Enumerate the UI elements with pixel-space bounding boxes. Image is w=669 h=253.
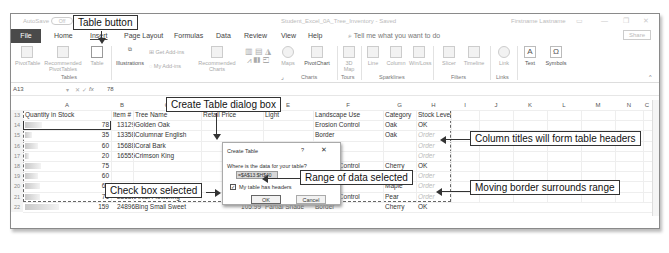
- sparkline-winloss-icon: [413, 46, 425, 58]
- slicer-button[interactable]: Slicer: [439, 46, 459, 66]
- share-button[interactable]: Share: [623, 30, 651, 40]
- insert-function-icon[interactable]: fx: [89, 86, 94, 92]
- illustrations-button[interactable]: ⧉Illustrations: [115, 46, 145, 66]
- name-box-dropdown-icon[interactable]: ▾: [66, 86, 69, 93]
- row-number[interactable]: 22: [11, 202, 23, 212]
- minimize-icon[interactable]: —: [601, 17, 608, 24]
- gridline: [23, 120, 653, 121]
- pivotchart-icon: [311, 46, 323, 58]
- sparkline-line-button[interactable]: Line: [364, 46, 382, 66]
- column-header-m[interactable]: M: [581, 100, 615, 110]
- cell-item[interactable]: 24896: [111, 202, 135, 212]
- column-header-j[interactable]: J: [479, 100, 513, 110]
- cell-tree-name[interactable]: Bing Small Sweet: [135, 202, 201, 212]
- row-number[interactable]: 16: [11, 141, 23, 151]
- ribbon-display-icon[interactable]: ▭: [576, 17, 583, 25]
- cell-category[interactable]: Cherry: [385, 202, 416, 212]
- link-button[interactable]: Link: [495, 46, 513, 66]
- cancel-icon[interactable]: ✕: [75, 86, 80, 93]
- column-header-b[interactable]: B: [111, 100, 133, 110]
- tab-home[interactable]: Home: [54, 32, 73, 39]
- formula-input[interactable]: 78: [107, 86, 114, 92]
- arrow-left-icon: [436, 188, 442, 196]
- enter-icon[interactable]: ✓: [82, 86, 87, 93]
- ribbon-separator: [490, 46, 491, 80]
- line-chart-icon: ⩘ ▥ ◰: [247, 56, 268, 65]
- chart-types-buttons[interactable]: ▥ ▤ ◮⩘ ▥ ◰: [243, 47, 273, 66]
- column-header-o[interactable]: C: [643, 100, 651, 110]
- row-number[interactable]: 17: [11, 151, 23, 161]
- table-button[interactable]: Table: [87, 46, 107, 66]
- restore-icon[interactable]: ❐: [623, 17, 629, 25]
- group-label-tours: Tours: [341, 74, 354, 80]
- tab-review[interactable]: Review: [244, 32, 267, 39]
- callout-arrow-line: [442, 191, 470, 192]
- charts-launcher-icon[interactable]: ⌟: [281, 74, 284, 80]
- dialog-close-icon[interactable]: ✕: [321, 146, 327, 154]
- group-label-charts: Charts: [301, 74, 317, 80]
- symbols-button[interactable]: ΩSymbols: [543, 46, 569, 66]
- callout-create-table-dialog: Create Table dialog box: [166, 97, 281, 112]
- arrow-left-icon: [440, 136, 446, 144]
- sparkline-column-button[interactable]: Column: [385, 46, 407, 66]
- vertical-scrollbar[interactable]: [652, 100, 659, 216]
- timeline-button[interactable]: Timeline: [461, 46, 487, 66]
- callout-arrow-line: [446, 139, 470, 140]
- collapse-ribbon-icon[interactable]: ^: [649, 74, 652, 80]
- column-header-k[interactable]: K: [513, 100, 547, 110]
- row-number[interactable]: 14: [11, 120, 23, 130]
- column-header-g[interactable]: G: [383, 100, 416, 110]
- recommended-pivottables-icon: [57, 46, 69, 58]
- gridline: [451, 110, 452, 202]
- row-number[interactable]: 21: [11, 192, 23, 202]
- menu-bar: File Home Insert Page Layout Formulas Da…: [11, 29, 659, 43]
- row-number[interactable]: 20: [11, 181, 23, 191]
- autosave-toggle[interactable]: Off: [51, 17, 73, 25]
- help-icon[interactable]: ?: [301, 147, 304, 153]
- tab-page-layout[interactable]: Page Layout: [124, 32, 163, 39]
- column-header-f[interactable]: F: [313, 100, 383, 110]
- user-name[interactable]: Firstname Lastname: [511, 18, 566, 24]
- sparkline-winloss-button[interactable]: Win/Loss: [409, 46, 429, 66]
- tab-help[interactable]: Help: [308, 32, 322, 39]
- cell-stock-level[interactable]: OK: [418, 202, 451, 212]
- column-header-l[interactable]: L: [547, 100, 581, 110]
- autosave-label: AutoSave: [23, 18, 49, 24]
- tab-view[interactable]: View: [281, 32, 296, 39]
- headers-checkbox[interactable]: ✓: [230, 184, 236, 190]
- 3d-map-button[interactable]: 3D Map: [340, 46, 358, 72]
- text-button[interactable]: AText: [521, 46, 539, 66]
- tab-data[interactable]: Data: [216, 32, 231, 39]
- column-header-i[interactable]: I: [451, 100, 479, 110]
- headers-checkbox-label[interactable]: My table has headers: [239, 184, 292, 190]
- active-cell: [23, 120, 111, 130]
- row-number[interactable]: 15: [11, 130, 23, 140]
- tab-file[interactable]: File: [11, 29, 41, 43]
- column-header-a[interactable]: A: [23, 100, 111, 110]
- column-header-h[interactable]: H: [416, 100, 451, 110]
- maps-icon: [282, 46, 294, 58]
- column-header-n[interactable]: N: [615, 100, 643, 110]
- close-icon[interactable]: ✕: [643, 17, 649, 25]
- recommended-charts-button[interactable]: Recommended Charts: [197, 46, 237, 72]
- timeline-icon: [468, 46, 480, 58]
- my-addins-button[interactable]: ◌ My Add-ins: [149, 63, 189, 69]
- tell-me-search[interactable]: ⌕ Tell me what you want to do: [348, 32, 440, 40]
- ok-button[interactable]: OK: [251, 195, 281, 204]
- row-number[interactable]: 18: [11, 161, 23, 171]
- ribbon-separator: [111, 46, 112, 80]
- row-number[interactable]: 13: [11, 110, 23, 120]
- callout-arrow-line: [268, 178, 300, 179]
- cell-quantity[interactable]: 159: [23, 202, 109, 212]
- slicer-icon: [443, 46, 455, 58]
- group-label-filters: Filters: [451, 74, 466, 80]
- name-box[interactable]: A13: [13, 86, 55, 92]
- get-addins-button[interactable]: ⊞ Get Add-ins: [149, 49, 189, 55]
- cancel-button[interactable]: Cancel: [296, 195, 326, 204]
- row-number[interactable]: 19: [11, 171, 23, 181]
- tab-formulas[interactable]: Formulas: [174, 32, 203, 39]
- maps-button[interactable]: Maps: [279, 46, 297, 66]
- pivottable-button[interactable]: PivotTable: [15, 46, 39, 66]
- recommended-pivottables-button[interactable]: Recommended PivotTables: [43, 46, 83, 72]
- pivotchart-button[interactable]: PivotChart: [301, 46, 333, 66]
